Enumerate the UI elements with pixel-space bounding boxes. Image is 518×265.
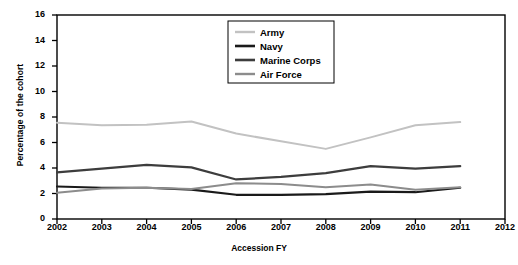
chart-figure: Percentage of the cohort Accession FY 02…	[0, 0, 518, 265]
legend-label: Navy	[260, 41, 283, 52]
legend-label: Air Force	[260, 69, 302, 80]
legend-label: Army	[260, 27, 285, 38]
legend-label: Marine Corps	[260, 55, 321, 66]
plot-area: ArmyNavyMarine CorpsAir Force	[0, 0, 518, 265]
